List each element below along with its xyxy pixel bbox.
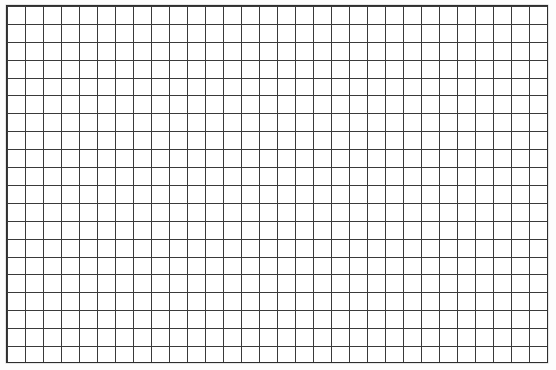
grid-lines (7, 6, 547, 362)
grid-sheet (6, 5, 548, 363)
